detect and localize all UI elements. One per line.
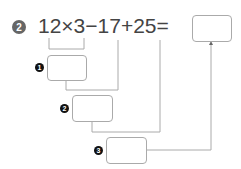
problem-number-badge: 2 [12, 20, 26, 34]
answer-box[interactable] [192, 15, 232, 42]
expression: 12×3−17+25= [38, 14, 169, 38]
step-2-marker: 2 [60, 104, 69, 113]
step-3-marker: 3 [94, 146, 103, 155]
step-1-box[interactable] [47, 55, 87, 81]
step-1-marker: 1 [35, 63, 44, 72]
step-3-box[interactable] [106, 137, 147, 164]
step-2-box[interactable] [72, 95, 113, 122]
